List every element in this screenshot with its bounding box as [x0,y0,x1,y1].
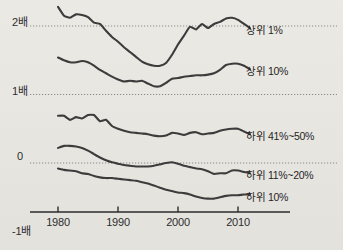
series-label-bottom-41-50-percent: 하위 41%~50% [246,128,314,143]
x-axis-label-2000: 2000 [161,216,195,228]
series-label-top-10-percent: 상위 10% [246,63,288,78]
series-line-top-1-percent [58,7,250,66]
x-axis-label-2010: 2010 [221,216,255,228]
y-axis-label-1: 1배 [12,82,28,98]
x-axis-ticks [58,207,238,213]
series-label-bottom-11-20-percent: 하위 11%~20% [246,167,313,182]
y-axis-label-2: 2배 [12,13,28,29]
series-line-bottom-11-20-percent [58,146,250,174]
series-label-bottom-10-percent: 하위 10% [246,189,288,204]
data-series-lines [58,7,250,199]
y-axis-label-0: 0 [17,150,23,162]
x-axis-label-1990: 1990 [101,216,135,228]
series-label-top-1-percent: 상위 1% [246,22,283,37]
line-chart-plot [0,0,343,250]
x-axis-label-1980: 1980 [41,216,75,228]
chart-container: 2배 1배 0 -1배 1980 1990 2000 2010 상위 1% 상위… [0,0,343,250]
series-line-bottom-41-50-percent [58,115,250,137]
y-axis-label-minus1: -1배 [12,222,31,238]
series-line-top-10-percent [58,58,250,87]
